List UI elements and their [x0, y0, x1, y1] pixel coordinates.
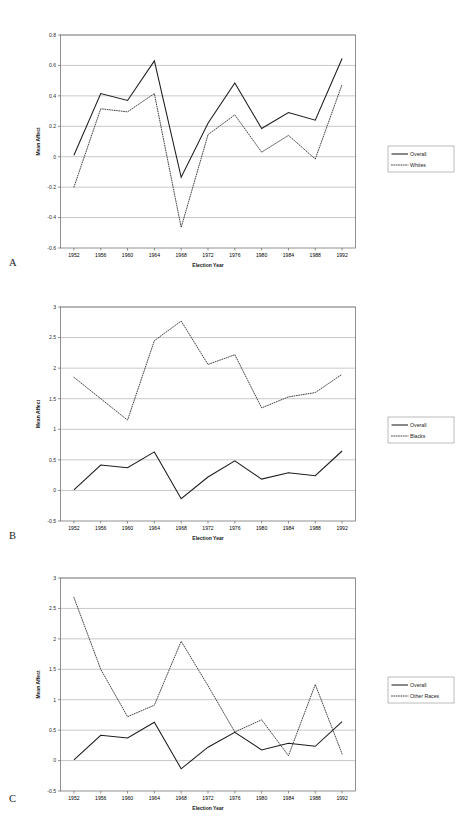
- y-tick-label: 0.2: [49, 123, 56, 129]
- x-tick-label: 1956: [95, 795, 106, 801]
- series-line-other-races: [74, 597, 342, 755]
- y-tick-label: 0: [53, 154, 56, 160]
- y-tick-label: 0.6: [49, 62, 56, 68]
- x-tick-label: 1972: [202, 525, 213, 531]
- legend-label-other-races: Other Races: [410, 693, 440, 699]
- x-tick-label: 1988: [310, 252, 321, 258]
- x-tick-label: 1964: [149, 252, 160, 258]
- y-tick-label: 1: [53, 697, 56, 703]
- chart-plot-a: -0.6-0.4-0.200.20.40.60.8195219561960196…: [0, 14, 466, 290]
- y-tick-label: -0.2: [47, 184, 56, 190]
- y-tick-label: 1.5: [49, 666, 56, 672]
- y-tick-label: -0.4: [47, 214, 56, 220]
- y-tick-label: 3: [53, 304, 56, 310]
- x-tick-label: 1960: [122, 525, 133, 531]
- x-tick-label: 1968: [176, 795, 187, 801]
- y-axis-title: Mean Affect: [35, 127, 41, 155]
- plot-frame: [61, 307, 356, 521]
- panel-label-c: C: [9, 793, 16, 804]
- x-tick-label: 1988: [310, 795, 321, 801]
- x-tick-label: 1992: [336, 252, 347, 258]
- y-tick-label: 2: [53, 365, 56, 371]
- plot-frame: [61, 35, 356, 248]
- chart-panel-b: -0.500.511.522.5319521956196019641968197…: [0, 290, 466, 565]
- x-tick-label: 1964: [149, 795, 160, 801]
- y-tick-label: 2.5: [49, 334, 56, 340]
- y-tick-label: 0: [53, 757, 56, 763]
- x-axis-title: Election Year: [192, 805, 223, 811]
- x-tick-label: 1984: [283, 795, 294, 801]
- x-tick-label: 1992: [336, 795, 347, 801]
- y-axis-title: Mean Affect: [35, 670, 41, 698]
- y-tick-label: -0.6: [47, 245, 56, 251]
- x-tick-label: 1984: [283, 525, 294, 531]
- x-tick-label: 1952: [68, 252, 79, 258]
- legend-label-blacks: Blacks: [410, 433, 426, 439]
- y-tick-label: -0.5: [47, 518, 56, 524]
- series-line-overall: [74, 451, 342, 499]
- y-tick-label: 3: [53, 575, 56, 581]
- x-axis-title: Election Year: [192, 535, 223, 541]
- legend: [388, 677, 454, 703]
- y-tick-label: 0.5: [49, 727, 56, 733]
- y-tick-label: 2.5: [49, 605, 56, 611]
- series-line-whites: [74, 84, 342, 227]
- x-tick-label: 1964: [149, 525, 160, 531]
- panel-label-a: A: [9, 257, 17, 268]
- legend: [388, 417, 454, 443]
- legend-label-overall: Overall: [410, 151, 426, 157]
- y-tick-label: 1.5: [49, 396, 56, 402]
- x-tick-label: 1976: [229, 525, 240, 531]
- x-tick-label: 1988: [310, 525, 321, 531]
- x-tick-label: 1984: [283, 252, 294, 258]
- x-axis-title: Election Year: [192, 262, 223, 268]
- series-line-overall: [74, 59, 342, 178]
- y-tick-label: 2: [53, 636, 56, 642]
- y-tick-label: -0.5: [47, 788, 56, 794]
- plot-frame: [61, 578, 356, 791]
- legend-label-overall: Overall: [410, 682, 426, 688]
- y-axis-title: Mean Affect: [35, 400, 41, 428]
- x-tick-label: 1980: [256, 525, 267, 531]
- legend-label-whites: Whites: [410, 162, 426, 168]
- series-line-overall: [74, 722, 342, 769]
- y-tick-label: 0.4: [49, 93, 56, 99]
- chart-panel-a: -0.6-0.4-0.200.20.40.60.8195219561960196…: [0, 14, 466, 290]
- series-line-blacks: [74, 321, 342, 420]
- y-tick-label: 0.8: [49, 32, 56, 38]
- x-tick-label: 1968: [176, 252, 187, 258]
- x-tick-label: 1980: [256, 795, 267, 801]
- chart-panel-c: -0.500.511.522.5319521956196019641968197…: [0, 565, 466, 820]
- x-tick-label: 1952: [68, 795, 79, 801]
- x-tick-label: 1976: [229, 795, 240, 801]
- figure-title: PARTY RELEVANCE OVER TIME: [0, 0, 466, 2]
- x-tick-label: 1960: [122, 795, 133, 801]
- x-tick-label: 1960: [122, 252, 133, 258]
- y-tick-label: 0: [53, 487, 56, 493]
- x-tick-label: 1976: [229, 252, 240, 258]
- x-tick-label: 1980: [256, 252, 267, 258]
- legend: [388, 146, 454, 172]
- legend-label-overall: Overall: [410, 422, 426, 428]
- x-tick-label: 1952: [68, 525, 79, 531]
- x-tick-label: 1956: [95, 525, 106, 531]
- x-tick-label: 1992: [336, 525, 347, 531]
- y-tick-label: 0.5: [49, 457, 56, 463]
- x-tick-label: 1972: [202, 252, 213, 258]
- x-tick-label: 1956: [95, 252, 106, 258]
- x-tick-label: 1968: [176, 525, 187, 531]
- chart-plot-c: -0.500.511.522.5319521956196019641968197…: [0, 565, 466, 820]
- y-tick-label: 1: [53, 426, 56, 432]
- chart-plot-b: -0.500.511.522.5319521956196019641968197…: [0, 290, 466, 565]
- panel-label-b: B: [9, 530, 16, 541]
- x-tick-label: 1972: [202, 795, 213, 801]
